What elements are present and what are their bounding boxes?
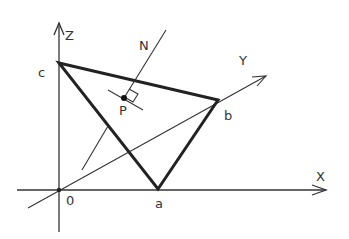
- projection-line: [82, 126, 108, 170]
- point-c-label: c: [38, 65, 45, 80]
- diagram-canvas: X Y Z 0 c b a P N: [0, 0, 349, 239]
- z-axis: [54, 23, 64, 232]
- plane-triangle-abc: [59, 63, 218, 189]
- normal-n-label: N: [139, 38, 149, 53]
- x-axis: [17, 185, 326, 195]
- point-p: [121, 95, 127, 101]
- point-a-label: a: [155, 196, 163, 211]
- origin-label: 0: [66, 193, 74, 208]
- x-axis-label: X: [316, 169, 325, 184]
- point-b-label: b: [224, 108, 232, 123]
- y-axis: [28, 76, 266, 208]
- y-axis-label: Y: [238, 53, 247, 68]
- origin-point: [57, 188, 61, 192]
- z-axis-label: Z: [65, 28, 74, 43]
- point-p-label: P: [119, 103, 127, 118]
